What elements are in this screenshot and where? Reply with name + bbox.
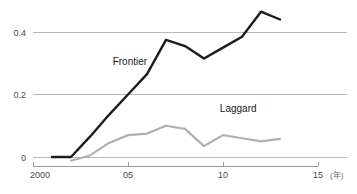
x-tick-label-1: 05	[123, 170, 133, 180]
series-annotations: FrontierLaggard	[113, 56, 257, 114]
annotation-frontier: Frontier	[113, 56, 148, 67]
y-axis-tick-labels: 00.20.4	[13, 28, 26, 163]
x-tick-label-0: 2000	[30, 170, 50, 180]
x-axis-group	[33, 162, 318, 166]
y-tick-label-2: 0.4	[13, 28, 26, 38]
line-chart: 00.20.4 2000051015 FrontierLaggard (年)	[0, 0, 357, 194]
annotation-laggard: Laggard	[220, 103, 257, 114]
x-axis-unit-text: (年)	[330, 170, 344, 180]
x-axis-tick-labels: 2000051015	[30, 170, 323, 180]
y-tick-label-0: 0	[21, 153, 26, 163]
series-group	[52, 12, 280, 161]
x-axis-unit-label: (年)	[330, 170, 344, 180]
y-tick-label-1: 0.2	[13, 90, 26, 100]
chart-container: 00.20.4 2000051015 FrontierLaggard (年)	[0, 0, 357, 194]
series-line-laggard	[71, 126, 280, 161]
series-line-frontier	[52, 12, 280, 157]
x-tick-label-3: 15	[313, 170, 323, 180]
x-tick-label-2: 10	[218, 170, 228, 180]
